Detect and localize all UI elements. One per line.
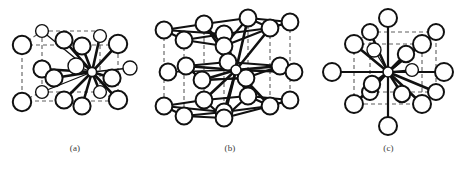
- atom: [367, 43, 381, 57]
- panel-b-caption: (b): [150, 143, 310, 153]
- atom: [156, 22, 173, 39]
- atom: [156, 98, 173, 115]
- atom: [55, 91, 72, 108]
- atom: [176, 32, 193, 49]
- atom: [176, 108, 193, 125]
- atom: [103, 69, 120, 86]
- atom: [345, 95, 363, 113]
- atom: [123, 61, 137, 75]
- atom: [216, 38, 233, 55]
- atom: [13, 93, 31, 111]
- bcc-structure-svg: [310, 0, 467, 140]
- atom: [94, 30, 107, 43]
- atom: [36, 25, 49, 38]
- atom: [262, 20, 279, 37]
- atom: [435, 63, 453, 81]
- panel-hcp-diagram: (b): [150, 0, 310, 171]
- atom: [73, 37, 90, 54]
- atom: [196, 16, 213, 33]
- center-atom: [383, 67, 393, 77]
- atom: [362, 24, 378, 40]
- atom: [379, 9, 397, 27]
- center-atom: [87, 67, 96, 76]
- atom: [406, 64, 419, 77]
- atom: [379, 117, 397, 135]
- atom: [13, 36, 31, 54]
- atom: [282, 14, 299, 31]
- atom: [428, 24, 444, 40]
- panel-c-caption: (c): [310, 143, 467, 153]
- atom: [282, 92, 299, 109]
- atom: [413, 35, 431, 53]
- atom: [178, 58, 195, 75]
- atom: [240, 10, 257, 27]
- atom: [413, 95, 431, 113]
- atom: [394, 86, 410, 102]
- hcp-structure-svg: [150, 0, 310, 140]
- atom: [73, 97, 90, 114]
- atom: [286, 64, 303, 81]
- atom: [240, 88, 257, 105]
- atom: [36, 86, 49, 99]
- atom: [55, 31, 72, 48]
- atom: [94, 86, 107, 99]
- atom: [194, 72, 211, 89]
- panel-bcc-diagram: (c): [310, 0, 467, 171]
- atom: [428, 84, 444, 100]
- atom: [160, 64, 177, 81]
- atom: [45, 69, 62, 86]
- atom: [216, 110, 233, 127]
- atom: [364, 76, 380, 92]
- atom: [345, 35, 363, 53]
- atom: [109, 35, 127, 53]
- atom: [323, 63, 341, 81]
- panel-a-caption: (a): [0, 143, 150, 153]
- atom: [398, 46, 414, 62]
- panel-fcc-diagram: (a): [0, 0, 150, 171]
- fcc-structure-svg: [0, 0, 150, 140]
- center-atom: [231, 65, 241, 75]
- atom: [109, 91, 127, 109]
- figure-container: (a): [0, 0, 467, 171]
- atom: [262, 98, 279, 115]
- atom: [68, 58, 84, 74]
- atom: [196, 92, 213, 109]
